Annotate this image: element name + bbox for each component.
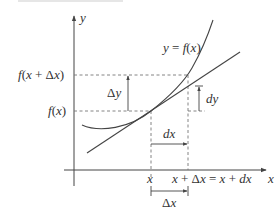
x-tick-x-plus-dx: x + Δx = x + dx xyxy=(171,171,252,186)
y-tick-f-x: f(x) xyxy=(48,103,66,118)
curve-label: y = f(x) xyxy=(161,40,201,55)
x-axis-label: x xyxy=(267,171,274,186)
delta-y-label: Δy xyxy=(107,85,121,100)
x-tick-x: x xyxy=(146,171,153,186)
y-axis-label: y xyxy=(78,10,86,25)
axes: y x xyxy=(64,10,274,186)
delta-x-label: Δx xyxy=(162,195,176,210)
dy-label: dy xyxy=(206,91,219,106)
y-tick-f-x-plus-dx: f(x + Δx) xyxy=(18,67,64,82)
dx-label: dx xyxy=(163,126,176,141)
guide-lines xyxy=(74,75,205,180)
differential-diagram: y x y = f(x) f(x + Δx) f(x) x x + Δx = x… xyxy=(0,0,280,215)
